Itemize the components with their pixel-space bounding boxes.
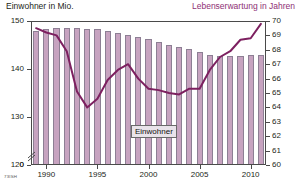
plot-area (31, 21, 266, 165)
ytick-mark-right-65 (266, 93, 270, 94)
ytick-mark-right-60 (266, 165, 270, 166)
ytick-right-67: 67 (272, 59, 294, 68)
xtick-mark-2010 (251, 165, 252, 169)
ytick-mark-right-61 (266, 151, 270, 152)
ytick-mark-right-64 (266, 107, 270, 108)
left-axis-title: Einwohner in Mio. (6, 1, 74, 11)
ytick-left-130: 130 (2, 112, 24, 121)
ytick-left-150: 150 (2, 16, 24, 25)
xtick-mark-2005 (200, 165, 201, 169)
series-label-einwohner: Einwohner (131, 125, 177, 138)
ytick-right-60: 60 (272, 160, 294, 169)
ytick-mark-left-140 (27, 69, 31, 70)
ytick-mark-right-66 (266, 79, 270, 80)
axis-break-icon (27, 150, 36, 162)
ytick-right-63: 63 (272, 117, 294, 126)
ytick-mark-right-62 (266, 136, 270, 137)
source-code: 73ISH (4, 174, 17, 179)
xtick-2010: 2010 (242, 170, 260, 179)
ytick-right-70: 70 (272, 16, 294, 25)
ytick-right-62: 62 (272, 131, 294, 140)
chart-figure: Einwohner in Mio. Lebenserwartung in Jah… (0, 0, 300, 189)
life-expectancy-line (31, 21, 266, 165)
xtick-2000: 2000 (140, 170, 158, 179)
xtick-mark-1995 (97, 165, 98, 169)
ytick-mark-left-150 (27, 21, 31, 22)
xtick-mark-2000 (149, 165, 150, 169)
ytick-left-0: 0 (2, 160, 24, 169)
ytick-mark-left-130 (27, 117, 31, 118)
xtick-2005: 2005 (191, 170, 209, 179)
xtick-mark-1990 (46, 165, 47, 169)
ytick-right-65: 65 (272, 88, 294, 97)
xtick-1990: 1990 (37, 170, 55, 179)
ytick-mark-right-67 (266, 64, 270, 65)
ytick-right-61: 61 (272, 146, 294, 155)
ytick-right-64: 64 (272, 102, 294, 111)
ytick-mark-right-70 (266, 21, 270, 22)
xtick-1995: 1995 (89, 170, 107, 179)
ytick-mark-right-63 (266, 122, 270, 123)
ytick-right-68: 68 (272, 45, 294, 54)
ytick-mark-right-68 (266, 50, 270, 51)
ytick-left-140: 140 (2, 64, 24, 73)
right-axis-title: Lebenserwartung in Jahren (192, 1, 295, 11)
ytick-right-69: 69 (272, 30, 294, 39)
ytick-mark-left-120 (27, 165, 31, 166)
ytick-right-66: 66 (272, 74, 294, 83)
ytick-mark-right-69 (266, 35, 270, 36)
